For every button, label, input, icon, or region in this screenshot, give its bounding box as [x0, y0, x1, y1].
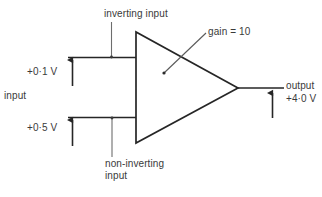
gain-label: gain = 10 — [208, 26, 250, 38]
non-inverting-input-leader — [111, 117, 114, 157]
inverting-input-voltage-label: +0·1 V — [27, 66, 57, 78]
non-inverting-input-voltage-label: +0·5 V — [27, 122, 57, 134]
input-label: input — [4, 90, 26, 102]
diagram-canvas: inverting input gain = 10 input +0·1 V +… — [0, 0, 322, 197]
non-inverting-input-label: non-inverting input — [105, 158, 183, 182]
output-label: output — [286, 80, 314, 92]
inverting-input-label: inverting input — [104, 8, 168, 20]
gain-leader — [162, 33, 206, 75]
inverting-input-leader — [110, 22, 113, 58]
output-voltage-label: +4·0 V — [286, 93, 316, 105]
amplifier-triangle — [136, 32, 238, 143]
non-inverting-input-label-line1: non-inverting — [105, 158, 164, 169]
non-inverting-input-label-line2: input — [105, 170, 127, 181]
